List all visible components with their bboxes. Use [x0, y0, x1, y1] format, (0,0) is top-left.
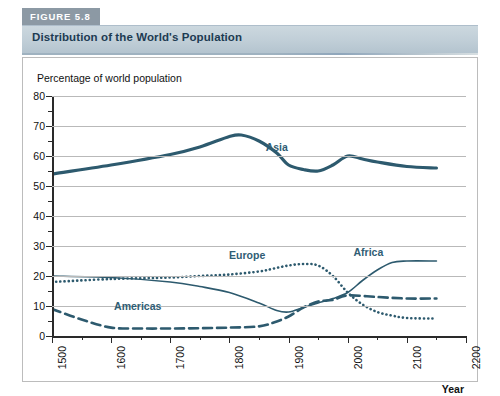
- x-axis-minor-tick: [82, 336, 83, 340]
- gridline: [52, 216, 466, 217]
- y-axis-minor-tick: [48, 231, 52, 232]
- x-axis-tick-label: 1700: [174, 346, 186, 369]
- page-title: Distribution of the World's Population: [32, 31, 242, 43]
- x-axis-minor-tick: [200, 336, 201, 340]
- x-axis-minor-tick: [259, 336, 260, 340]
- header-divider: [22, 53, 478, 55]
- y-axis-minor-tick: [48, 261, 52, 262]
- x-axis-tick: [170, 336, 171, 343]
- x-axis-title: Year: [442, 383, 464, 395]
- gridline: [52, 126, 466, 127]
- series-label-europe: Europe: [229, 249, 265, 261]
- series-line-asia: [52, 135, 436, 174]
- y-axis-tick-label: 50: [33, 180, 45, 192]
- figure-number-badge: FIGURE 5.8: [22, 8, 100, 25]
- x-axis-tick-label: 2200: [470, 346, 482, 369]
- gridline: [52, 276, 466, 277]
- y-axis-tick: [46, 186, 52, 187]
- x-axis-tick-label: 1800: [233, 346, 245, 369]
- x-axis-minor-tick: [318, 336, 319, 340]
- y-axis-tick: [46, 96, 52, 97]
- y-axis-tick-label: 60: [33, 150, 45, 162]
- y-axis-tick-label: 70: [33, 120, 45, 132]
- y-axis-tick: [46, 276, 52, 277]
- y-axis-title: Percentage of world population: [37, 72, 182, 84]
- plot-frame: Percentage of world population 010203040…: [22, 57, 478, 382]
- gridline: [52, 156, 466, 157]
- series-label-americas: Americas: [114, 300, 161, 312]
- x-axis-tick: [348, 336, 349, 343]
- y-axis-tick-label: 10: [33, 300, 45, 312]
- x-axis-minor-tick: [377, 336, 378, 340]
- y-axis-tick-label: 30: [33, 240, 45, 252]
- x-axis-tick: [407, 336, 408, 343]
- x-axis-tick: [289, 336, 290, 343]
- y-axis-minor-tick: [48, 321, 52, 322]
- series-line-europe: [52, 264, 436, 319]
- y-axis-minor-tick: [48, 291, 52, 292]
- x-axis-tick: [229, 336, 230, 343]
- y-axis-minor-tick: [48, 201, 52, 202]
- x-axis-tick-label: 1600: [115, 346, 127, 369]
- x-axis-tick: [52, 336, 53, 343]
- x-axis-minor-tick: [436, 336, 437, 340]
- y-axis-tick: [46, 306, 52, 307]
- y-axis-tick: [46, 216, 52, 217]
- x-axis-tick-label: 1500: [56, 346, 68, 369]
- figure-card: FIGURE 5.8 Distribution of the World's P…: [8, 5, 492, 386]
- chart-plot-area: 01020304050607080 1500160017001800190020…: [52, 96, 466, 336]
- y-axis-minor-tick: [48, 111, 52, 112]
- x-axis-tick-label: 2000: [352, 346, 364, 369]
- series-line-africa: [52, 261, 436, 312]
- gridline: [52, 96, 466, 97]
- y-axis-minor-tick: [48, 171, 52, 172]
- y-axis-tick-label: 20: [33, 270, 45, 282]
- y-axis-tick: [46, 126, 52, 127]
- y-axis-tick: [46, 246, 52, 247]
- gridline: [52, 246, 466, 247]
- x-axis-tick-label: 1900: [293, 346, 305, 369]
- y-axis-tick-label: 40: [33, 210, 45, 222]
- figure-title-bar: Distribution of the World's Population: [22, 25, 478, 53]
- y-axis-tick-label: 80: [33, 90, 45, 102]
- y-axis-tick: [46, 156, 52, 157]
- gridline: [52, 186, 466, 187]
- x-axis-minor-tick: [141, 336, 142, 340]
- y-axis-minor-tick: [48, 141, 52, 142]
- x-axis-tick-label: 2100: [411, 346, 423, 369]
- series-label-asia: Asia: [266, 141, 288, 153]
- x-axis-tick: [466, 336, 467, 343]
- series-label-africa: Africa: [354, 246, 384, 258]
- y-axis-tick-label: 0: [39, 330, 45, 342]
- x-axis-tick: [111, 336, 112, 343]
